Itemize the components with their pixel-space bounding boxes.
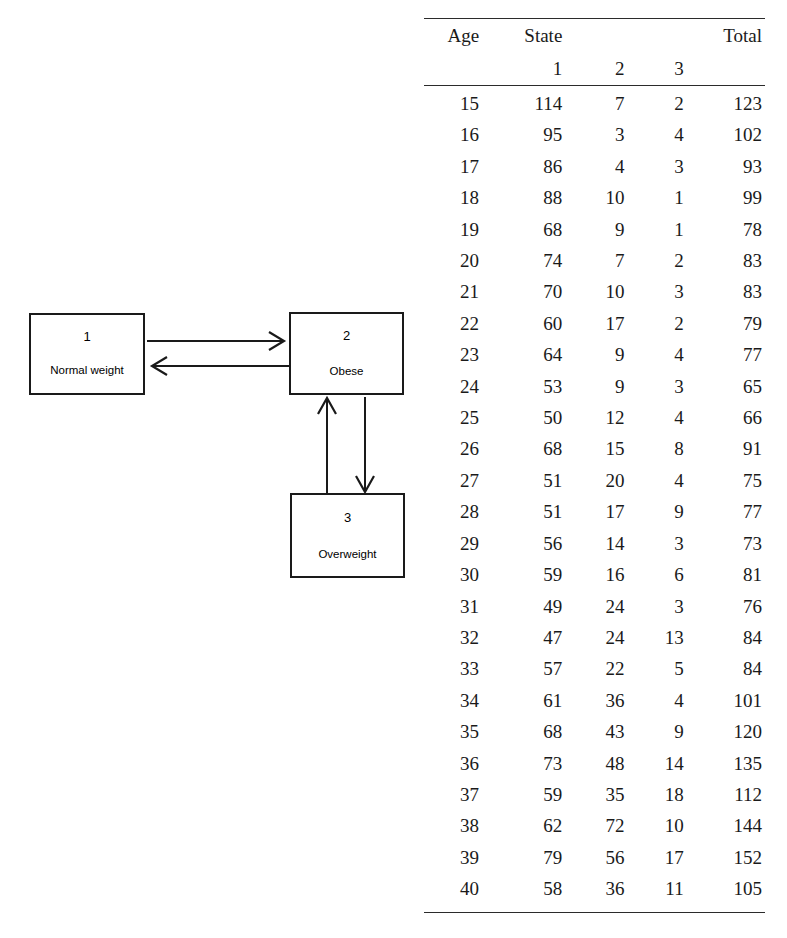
table-row: 335722584: [424, 653, 765, 684]
cell-s2: 9: [572, 339, 634, 370]
cell-total: 120: [694, 716, 765, 747]
cell-total: 135: [694, 748, 765, 779]
state-box-overweight-label: Overweight: [292, 549, 403, 561]
table-row: 305916681: [424, 559, 765, 590]
table-row: 38627210144: [424, 810, 765, 841]
cell-s1: 86: [485, 151, 572, 182]
cell-s1: 51: [485, 496, 572, 527]
column-header-state: State: [485, 19, 572, 54]
cell-age: 21: [424, 276, 485, 307]
arrow-normal-weight-to-obese: [147, 332, 284, 350]
state-transition-diagram: 1 Normal weight 2 Obese 3 Overweight: [0, 0, 420, 938]
table-row: 285117977: [424, 496, 765, 527]
table-row: 295614373: [424, 528, 765, 559]
cell-total: 65: [694, 371, 765, 402]
cell-total: 76: [694, 591, 765, 622]
cell-s1: 51: [485, 465, 572, 496]
cell-age: 27: [424, 465, 485, 496]
cell-total: 78: [694, 214, 765, 245]
cell-s1: 57: [485, 653, 572, 684]
cell-s2: 56: [572, 842, 634, 873]
table-row: 23649477: [424, 339, 765, 370]
cell-s3: 10: [635, 810, 694, 841]
cell-total: 91: [694, 433, 765, 464]
cell-age: 33: [424, 653, 485, 684]
cell-s3: 4: [635, 119, 694, 150]
cell-s1: 56: [485, 528, 572, 559]
cell-s2: 35: [572, 779, 634, 810]
cell-s1: 59: [485, 559, 572, 590]
cell-total: 83: [694, 276, 765, 307]
age-state-frequency-table: Age State Total 1 2 3 151147212316953410…: [424, 18, 765, 905]
cell-total: 84: [694, 653, 765, 684]
table-row: 3568439120: [424, 716, 765, 747]
cell-age: 23: [424, 339, 485, 370]
table-body: 1511472123169534102178643931888101991968…: [424, 86, 765, 905]
cell-s1: 62: [485, 810, 572, 841]
cell-s1: 68: [485, 433, 572, 464]
cell-age: 38: [424, 810, 485, 841]
table-row: 3461364101: [424, 685, 765, 716]
cell-age: 34: [424, 685, 485, 716]
cell-s3: 1: [635, 182, 694, 213]
cell-s3: 1: [635, 214, 694, 245]
cell-s1: 50: [485, 402, 572, 433]
table-header-row-primary: Age State Total: [424, 19, 765, 54]
cell-s3: 3: [635, 371, 694, 402]
cell-total: 81: [694, 559, 765, 590]
cell-s2: 7: [572, 86, 634, 120]
table-header-row-state-levels: 1 2 3: [424, 53, 765, 86]
table-row: 275120475: [424, 465, 765, 496]
cell-s1: 95: [485, 119, 572, 150]
cell-s2: 3: [572, 119, 634, 150]
state-box-overweight-id: 3: [292, 511, 403, 524]
cell-age: 31: [424, 591, 485, 622]
cell-age: 20: [424, 245, 485, 276]
cell-total: 77: [694, 339, 765, 370]
table-row: 40583611105: [424, 873, 765, 904]
cell-total: 73: [694, 528, 765, 559]
cell-total: 105: [694, 873, 765, 904]
cell-age: 25: [424, 402, 485, 433]
cell-age: 36: [424, 748, 485, 779]
cell-s2: 36: [572, 873, 634, 904]
cell-s1: 68: [485, 716, 572, 747]
table-bottom-rule: [424, 912, 765, 913]
cell-total: 75: [694, 465, 765, 496]
column-subheader-state-3: 3: [635, 53, 694, 86]
cell-total: 152: [694, 842, 765, 873]
cell-total: 99: [694, 182, 765, 213]
cell-age: 18: [424, 182, 485, 213]
table-row: 188810199: [424, 182, 765, 213]
cell-s2: 24: [572, 591, 634, 622]
cell-age: 40: [424, 873, 485, 904]
cell-s3: 17: [635, 842, 694, 873]
cell-s2: 24: [572, 622, 634, 653]
cell-s2: 15: [572, 433, 634, 464]
cell-age: 37: [424, 779, 485, 810]
cell-s2: 7: [572, 245, 634, 276]
cell-s2: 12: [572, 402, 634, 433]
cell-s3: 8: [635, 433, 694, 464]
cell-s3: 6: [635, 559, 694, 590]
cell-s1: 74: [485, 245, 572, 276]
cell-s2: 9: [572, 214, 634, 245]
cell-s1: 47: [485, 622, 572, 653]
cell-s3: 9: [635, 716, 694, 747]
cell-s3: 11: [635, 873, 694, 904]
table-row: 169534102: [424, 119, 765, 150]
cell-s3: 3: [635, 528, 694, 559]
cell-age: 32: [424, 622, 485, 653]
column-subheader-total-blank: [694, 53, 765, 86]
table-row: 226017279: [424, 308, 765, 339]
frequency-table-element: Age State Total 1 2 3 151147212316953410…: [424, 18, 765, 905]
table-header: Age State Total 1 2 3: [424, 19, 765, 86]
table-row: 217010383: [424, 276, 765, 307]
table-row: 3247241384: [424, 622, 765, 653]
cell-s3: 4: [635, 685, 694, 716]
column-header-state-spacer-2: [572, 19, 634, 54]
cell-s2: 20: [572, 465, 634, 496]
cell-s1: 60: [485, 308, 572, 339]
cell-s1: 79: [485, 842, 572, 873]
cell-s2: 48: [572, 748, 634, 779]
